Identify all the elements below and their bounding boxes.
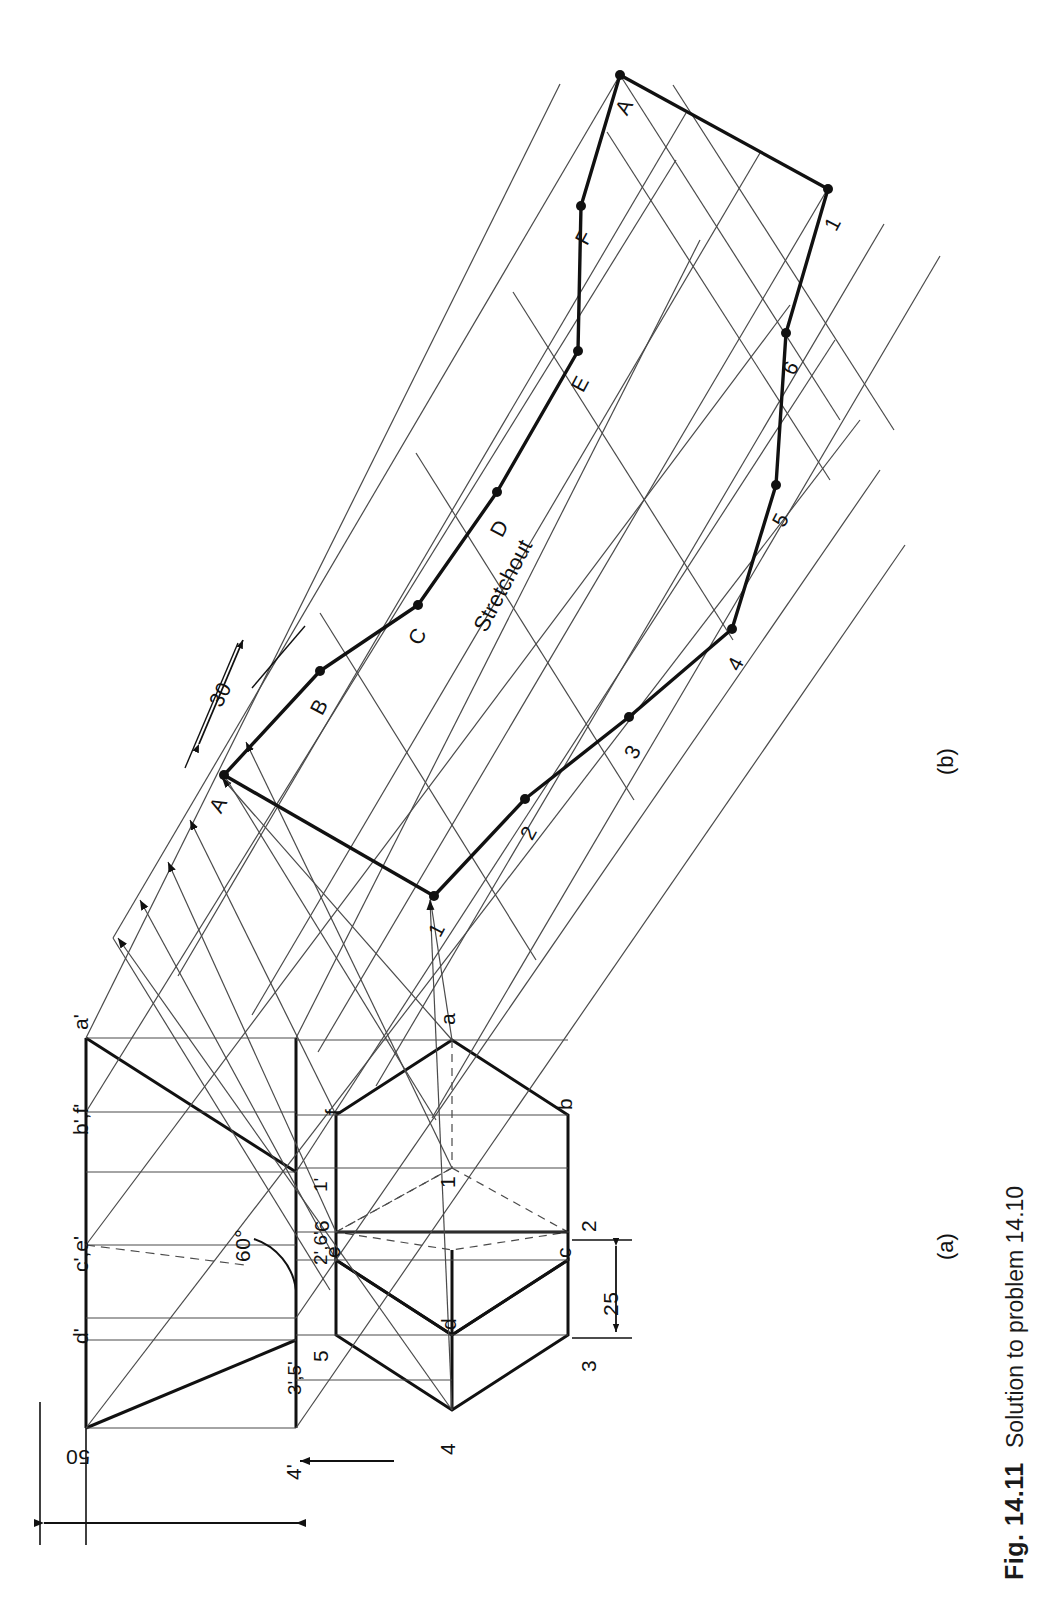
label-3: 3 (578, 1360, 599, 1372)
label-b: b (554, 1098, 575, 1110)
label-4-prime: 4' (283, 1464, 304, 1480)
sublabel-a: (a) (935, 1233, 957, 1260)
label-angle-60: 60° (232, 1229, 253, 1262)
dimension-label-25: 25 (600, 1292, 621, 1316)
stretchout-generators (113, 75, 894, 1290)
stretchout-upper-curve (224, 75, 620, 775)
label-d-prime: d' (70, 1328, 91, 1344)
dimension-25 (572, 1240, 632, 1338)
projection-rays (86, 84, 905, 1428)
label-c: c (553, 1248, 574, 1259)
dimension-30 (185, 626, 305, 768)
front-elevation (86, 1038, 296, 1428)
label-ce-prime: c',e' (70, 1236, 91, 1272)
label-1-prime: 1' (311, 1178, 330, 1192)
caption-figure-number: Fig. 14.11 (1000, 1462, 1028, 1580)
label-d: d (438, 1318, 459, 1330)
label-a: a (437, 1013, 458, 1025)
label-6: 6 (311, 1220, 332, 1232)
figure-caption: Fig. 14.11 Solution to problem 14.10 (1000, 1186, 1029, 1580)
label-a-prime: a' (70, 1014, 91, 1030)
stretchout-side-edges (224, 75, 828, 896)
label-4: 4 (437, 1443, 458, 1455)
label-f: f (322, 1109, 343, 1115)
label-e: e (322, 1246, 343, 1258)
drawing-sheet: a' b',f' c',e' d' 1' 2',6' 3',5' 4' 60° … (0, 0, 1055, 1610)
caption-figure-text: Solution to problem 14.10 (1002, 1186, 1028, 1448)
plan-hexagon (296, 1040, 568, 1410)
label-2: 2 (578, 1220, 599, 1232)
label-1: 1 (437, 1176, 458, 1188)
dimension-label-50: 50 (66, 1447, 90, 1468)
label-bf-prime: b',f' (70, 1104, 91, 1135)
technical-drawing-canvas (0, 0, 1055, 1610)
label-5: 5 (310, 1350, 331, 1362)
sublabel-b: (b) (935, 748, 957, 775)
dimension-50 (40, 1402, 300, 1545)
stretchout-lower-curve (434, 189, 828, 896)
label-35-prime: 3',5' (285, 1361, 304, 1395)
